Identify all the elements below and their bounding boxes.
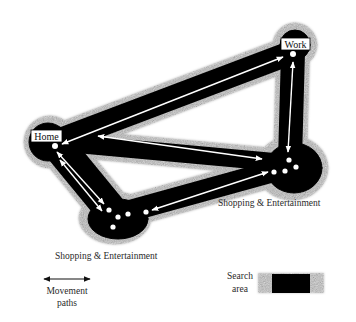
shopping-bottom-dot: [110, 224, 115, 229]
legend-search-core-swatch: [272, 274, 310, 293]
legend-movement-line2: paths: [57, 298, 77, 308]
shopping-bottom-label: Shopping & Entertainment: [55, 251, 158, 261]
movement-diagram: Home Work Shopping & Entertainment Shopp…: [0, 0, 356, 322]
shopping-right-dot: [271, 169, 276, 174]
shopping-bottom-dot: [115, 214, 120, 219]
home-label: Home: [34, 131, 59, 142]
shopping-bottom-dot: [143, 209, 148, 214]
legend-search: Search area: [227, 271, 324, 294]
work-dot: [290, 51, 296, 57]
legend-movement-line1: Movement: [46, 286, 88, 296]
work-node-label: Work: [281, 38, 310, 50]
shopping-bottom-dot: [125, 211, 130, 216]
path-home-work: [62, 57, 283, 144]
legend-search-line2: area: [232, 284, 249, 294]
legend-search-line1: Search: [227, 271, 253, 281]
shopping-right-label: Shopping & Entertainment: [218, 198, 321, 208]
shopping-right-dot: [293, 164, 298, 169]
shopping-right-dot: [282, 168, 287, 173]
work-label: Work: [285, 39, 307, 50]
shopping-right-dot: [286, 157, 291, 162]
home-dot: [52, 143, 58, 149]
home-node-label: Home: [31, 130, 62, 142]
legend-movement: Movement paths: [44, 279, 90, 308]
shopping-bottom-dot: [106, 207, 111, 212]
